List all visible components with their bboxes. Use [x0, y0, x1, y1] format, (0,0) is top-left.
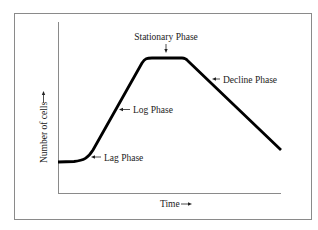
y-axis-title: Number of cells: [39, 91, 49, 163]
decline-phase-annotation: Decline Phase: [212, 75, 277, 85]
decline-phase-label: Decline Phase: [223, 75, 277, 85]
x-axis-label: Time: [160, 199, 180, 209]
stationary-phase-annotation: Stationary Phase: [134, 32, 198, 53]
lag-phase-label: Lag Phase: [104, 153, 143, 163]
growth-curve-diagram: Lag Phase Log Phase Stationary Phase Dec…: [0, 0, 318, 230]
lag-phase-annotation: Lag Phase: [91, 153, 143, 163]
outer-frame: [15, 14, 312, 220]
y-axis-label: Number of cells: [39, 101, 49, 163]
log-phase-annotation: Log Phase: [119, 105, 173, 115]
log-phase-label: Log Phase: [133, 105, 173, 115]
x-axis-title: Time: [160, 199, 192, 209]
stationary-phase-label: Stationary Phase: [134, 32, 198, 42]
